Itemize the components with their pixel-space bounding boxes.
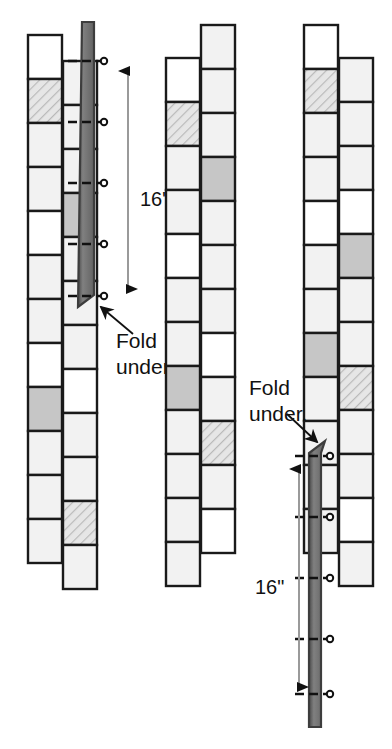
quilt-cell: [166, 278, 200, 322]
quilt-cell: [201, 69, 235, 113]
quilt-cell: [63, 457, 97, 501]
quilt-cell: [339, 454, 373, 498]
quilt-cell: [201, 333, 235, 377]
pin-head-icon: [327, 514, 333, 520]
figure-middle: [166, 25, 235, 586]
pin-head-icon: [327, 636, 333, 642]
diagram-canvas: 16"Foldunder.16"Foldunder.: [0, 0, 392, 749]
quilt-cell: [339, 322, 373, 366]
quilt-cell: [63, 325, 97, 369]
quilt-cell: [28, 475, 62, 519]
quilt-cell: [304, 113, 338, 157]
callout-label-line1: Fold: [249, 376, 290, 399]
quilt-cell: [201, 245, 235, 289]
quilt-cell: [166, 102, 200, 146]
quilt-cell: [28, 387, 62, 431]
figure-middle-column-inner: [201, 25, 235, 553]
quilt-cell: [28, 211, 62, 255]
quilt-cell: [339, 366, 373, 410]
quilt-cell: [166, 410, 200, 454]
quilt-cell: [304, 289, 338, 333]
quilt-cell: [166, 454, 200, 498]
pin-head-icon: [101, 180, 107, 186]
pin-head-icon: [101, 58, 107, 64]
quilt-cell: [201, 157, 235, 201]
quilt-cell: [304, 245, 338, 289]
quilt-assembly-diagram: 16"Foldunder.16"Foldunder.: [0, 0, 392, 749]
quilt-cell: [28, 255, 62, 299]
quilt-cell: [201, 201, 235, 245]
quilt-cell: [339, 542, 373, 586]
quilt-cell: [166, 58, 200, 102]
quilt-cell: [166, 498, 200, 542]
quilt-cell: [201, 509, 235, 553]
pin-head-icon: [327, 575, 333, 581]
quilt-cell: [28, 79, 62, 123]
quilt-cell: [166, 366, 200, 410]
quilt-cell: [201, 421, 235, 465]
quilt-cell: [166, 234, 200, 278]
quilt-cell: [201, 377, 235, 421]
quilt-cell: [304, 157, 338, 201]
quilt-cell: [339, 146, 373, 190]
quilt-cell: [166, 190, 200, 234]
quilt-cell: [28, 35, 62, 79]
pin-head-icon: [101, 241, 107, 247]
quilt-cell: [339, 234, 373, 278]
quilt-cell: [28, 123, 62, 167]
quilt-cell: [201, 25, 235, 69]
quilt-cell: [63, 413, 97, 457]
pin-head-icon: [327, 453, 333, 459]
quilt-cell: [28, 343, 62, 387]
quilt-cell: [304, 377, 338, 421]
quilt-cell: [201, 289, 235, 333]
quilt-cell: [28, 431, 62, 475]
quilt-cell: [166, 322, 200, 366]
pin-head-icon: [327, 691, 333, 697]
pin-head-icon: [101, 293, 107, 299]
quilt-cell: [304, 69, 338, 113]
figure-middle-column-outer: [166, 58, 200, 586]
quilt-cell: [339, 102, 373, 146]
quilt-cell: [28, 167, 62, 211]
quilt-cell: [201, 465, 235, 509]
dimension-label: 16": [255, 576, 284, 598]
quilt-cell: [304, 25, 338, 69]
figure-right-column-inner: [339, 58, 373, 586]
quilt-cell: [201, 113, 235, 157]
quilt-cell: [304, 333, 338, 377]
quilt-cell: [339, 190, 373, 234]
quilt-cell: [28, 299, 62, 343]
quilt-cell: [28, 519, 62, 563]
quilt-cell: [339, 278, 373, 322]
quilt-cell: [339, 58, 373, 102]
figure-left-column-outer: [28, 35, 62, 563]
quilt-cell: [63, 369, 97, 413]
figure-left-fold-strip: [78, 22, 94, 307]
quilt-cell: [63, 501, 97, 545]
quilt-cell: [304, 201, 338, 245]
pin-head-icon: [101, 119, 107, 125]
quilt-cell: [166, 146, 200, 190]
callout-label-line2: under.: [249, 402, 307, 425]
quilt-cell: [166, 542, 200, 586]
quilt-cell: [339, 498, 373, 542]
quilt-cell: [63, 545, 97, 589]
quilt-cell: [339, 410, 373, 454]
callout-label-line1: Fold: [116, 329, 157, 352]
